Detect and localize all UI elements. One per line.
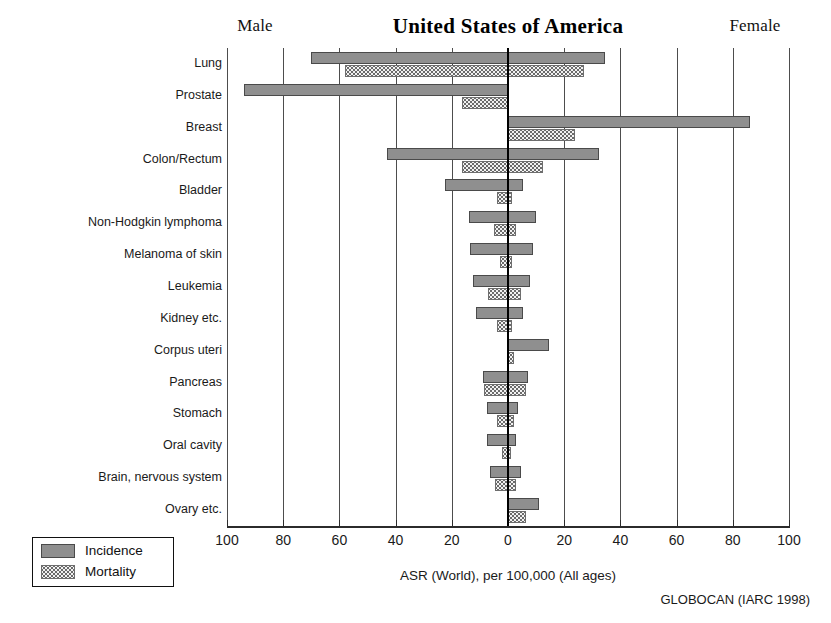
x-axis-tick-label: 100 [769, 532, 809, 548]
category-label: Kidney etc. [12, 312, 222, 325]
mortality-swatch-icon [41, 565, 75, 579]
mortality-bar [497, 415, 514, 427]
x-axis-tick [339, 520, 340, 528]
gridline [339, 48, 340, 526]
mortality-bar [508, 511, 526, 523]
male-side-label: Male [200, 16, 310, 36]
legend-label-mortality: Mortality [85, 564, 136, 579]
source-attribution: GLOBOCAN (IARC 1998) [560, 592, 810, 607]
category-label: Non-Hodgkin lymphoma [12, 216, 222, 229]
incidence-bar [387, 148, 599, 160]
category-label: Breast [12, 121, 222, 134]
category-label: Colon/Rectum [12, 153, 222, 166]
x-axis-tick-label: 20 [544, 532, 584, 548]
gridline [789, 48, 790, 526]
mortality-bar [495, 479, 516, 491]
x-axis-tick [283, 520, 284, 528]
mortality-bar [462, 161, 543, 173]
x-axis-tick-label: 40 [376, 532, 416, 548]
zero-axis-line [507, 48, 509, 526]
incidence-swatch-icon [41, 544, 75, 558]
category-label: Prostate [12, 89, 222, 102]
category-label: Bladder [12, 184, 222, 197]
mortality-bar [497, 320, 512, 332]
x-axis-tick-label: 60 [319, 532, 359, 548]
category-label: Leukemia [12, 280, 222, 293]
x-axis-tick [677, 520, 678, 528]
mortality-bar [345, 65, 584, 77]
category-label: Ovary etc. [12, 503, 222, 516]
mortality-bar [484, 384, 526, 396]
mortality-bar [500, 256, 513, 268]
x-axis-tick [227, 520, 228, 528]
x-axis-tick [789, 520, 790, 528]
incidence-bar [508, 339, 549, 351]
gridline [227, 48, 228, 526]
gridline [452, 48, 453, 526]
x-axis-tick-label: 80 [263, 532, 303, 548]
legend-box: Incidence Mortality [32, 537, 174, 587]
incidence-bar [508, 498, 539, 510]
gridline [283, 48, 284, 526]
gridline [396, 48, 397, 526]
category-label: Oral cavity [12, 439, 222, 452]
x-axis-tick [733, 520, 734, 528]
x-axis-title: ASR (World), per 100,000 (All ages) [328, 568, 688, 583]
incidence-bar [244, 84, 508, 96]
mortality-bar [508, 129, 575, 141]
x-axis-tick-label: 20 [432, 532, 472, 548]
legend-label-incidence: Incidence [85, 543, 143, 558]
mortality-bar [494, 224, 516, 236]
category-label-column: LungProstateBreastColon/RectumBladderNon… [8, 48, 222, 526]
category-label: Lung [12, 57, 222, 70]
x-axis-tick [396, 520, 397, 528]
incidence-bar [311, 52, 605, 64]
mortality-bar [497, 192, 512, 204]
incidence-bar [445, 179, 524, 191]
x-axis-tick-label: 40 [600, 532, 640, 548]
x-axis-tick [620, 520, 621, 528]
x-axis-tick-label: 0 [488, 532, 528, 548]
incidence-bar [470, 243, 533, 255]
x-axis-tick-label: 80 [713, 532, 753, 548]
incidence-bar [483, 371, 528, 383]
category-label: Pancreas [12, 376, 222, 389]
category-label: Melanoma of skin [12, 248, 222, 261]
plot-area [227, 48, 789, 526]
globocan-pyramid-chart: Male United States of America Female Lun… [0, 0, 831, 623]
category-label: Corpus uteri [12, 344, 222, 357]
category-label: Brain, nervous system [12, 471, 222, 484]
mortality-bar [462, 97, 508, 109]
female-side-label: Female [700, 16, 810, 36]
incidence-bar [469, 211, 536, 223]
mortality-bar [488, 288, 520, 300]
incidence-bar [473, 275, 531, 287]
incidence-bar [476, 307, 524, 319]
category-label: Stomach [12, 407, 222, 420]
incidence-bar [487, 434, 517, 446]
x-axis-tick-label: 100 [207, 532, 247, 548]
chart-title: United States of America [328, 14, 688, 39]
incidence-bar [487, 402, 518, 414]
incidence-bar [508, 116, 750, 128]
x-axis-tick-label: 60 [657, 532, 697, 548]
x-axis-tick [564, 520, 565, 528]
incidence-bar [490, 466, 521, 478]
x-axis-tick [452, 520, 453, 528]
